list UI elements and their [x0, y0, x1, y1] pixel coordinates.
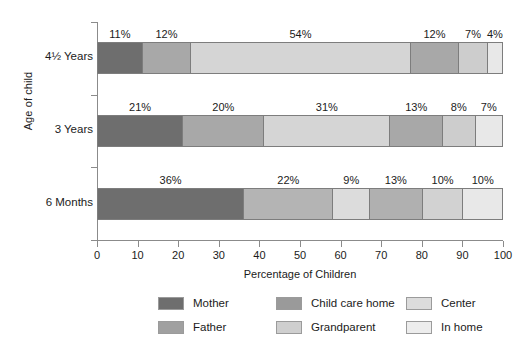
bar-segment-value-label: 11%	[109, 28, 130, 40]
x-axis-tick	[503, 241, 504, 247]
x-axis-tick-label: 90	[447, 249, 477, 261]
x-axis-tick-label: 40	[244, 249, 274, 261]
legend-item[interactable]: Center	[406, 297, 508, 310]
bar-segment-value-label: 4%	[487, 28, 503, 40]
bar-segment[interactable]: 31%	[263, 115, 389, 147]
x-axis-tick	[422, 241, 423, 247]
bar-segment[interactable]: 7%	[458, 42, 486, 74]
legend-item[interactable]: Child care home	[276, 297, 406, 310]
bar-segment-value-label: 8%	[451, 101, 467, 113]
bar-segment[interactable]: 36%	[97, 188, 243, 220]
y-axis-tick	[91, 95, 97, 96]
y-axis-category-labels: 4½ Years3 Years6 Months	[0, 0, 93, 240]
x-axis-tick	[219, 241, 220, 247]
bar-segment[interactable]: 54%	[190, 42, 409, 74]
bar-segment[interactable]: 12%	[142, 42, 191, 74]
legend-label: Mother	[193, 297, 229, 309]
bar-segment[interactable]: 9%	[332, 188, 369, 220]
legend-swatch	[406, 321, 432, 334]
bar-segment[interactable]: 22%	[243, 188, 332, 220]
bar-segment-value-label: 10%	[472, 174, 494, 186]
bar-segment-value-label: 12%	[423, 28, 445, 40]
x-axis-tick	[259, 241, 260, 247]
bar-group: 11%12%54%12%7%4%	[97, 42, 503, 74]
stacked-bar[interactable]: 21%20%31%13%8%7%	[97, 115, 503, 147]
bar-segment-value-label: 13%	[385, 174, 407, 186]
y-axis-tick	[91, 22, 97, 23]
bar-group: 21%20%31%13%8%7%	[97, 115, 503, 147]
bar-segment-value-label: 13%	[405, 101, 427, 113]
x-axis-tick-label: 80	[407, 249, 437, 261]
bar-segment-value-label: 12%	[156, 28, 178, 40]
bar-segment-value-label: 7%	[481, 101, 497, 113]
legend-label: Father	[193, 321, 226, 333]
x-axis-tick-label: 50	[285, 249, 315, 261]
x-axis-tick	[138, 241, 139, 247]
bar-segment-value-label: 7%	[465, 28, 481, 40]
x-axis-tick	[462, 241, 463, 247]
chart-legend: MotherChild care homeCenterFatherGrandpa…	[158, 291, 508, 339]
y-axis-category-label: 3 Years	[7, 123, 93, 135]
bar-segment-value-label: 54%	[289, 28, 311, 40]
y-axis-category-label: 6 Months	[7, 196, 93, 208]
x-axis-tick-label: 70	[366, 249, 396, 261]
x-axis-tick-label: 60	[326, 249, 356, 261]
x-axis-tick-label: 30	[204, 249, 234, 261]
stacked-bar[interactable]: 11%12%54%12%7%4%	[97, 42, 503, 74]
stacked-bar-chart: Age of child 4½ Years3 Years6 Months 11%…	[0, 0, 526, 351]
bar-segment[interactable]: 8%	[442, 115, 474, 147]
bar-segment[interactable]: 13%	[389, 115, 442, 147]
bar-group: 36%22%9%13%10%10%	[97, 188, 503, 220]
x-axis-tick	[341, 241, 342, 247]
bar-segment-value-label: 22%	[277, 174, 299, 186]
legend-swatch	[276, 297, 302, 310]
legend-label: Grandparent	[311, 321, 376, 333]
bar-segment[interactable]: 7%	[475, 115, 503, 147]
bar-segment[interactable]: 11%	[97, 42, 142, 74]
bar-segment[interactable]: 12%	[410, 42, 459, 74]
x-axis-tick	[381, 241, 382, 247]
bar-segment[interactable]: 10%	[422, 188, 463, 220]
x-axis-tick-label: 20	[163, 249, 193, 261]
bar-segment-value-label: 36%	[160, 174, 182, 186]
plot-area: 11%12%54%12%7%4%21%20%31%13%8%7%36%22%9%…	[97, 22, 503, 240]
legend-label: Child care home	[311, 297, 395, 309]
x-axis-title: Percentage of Children	[97, 268, 503, 280]
x-axis-tick	[178, 241, 179, 247]
bar-segment-value-label: 31%	[316, 101, 338, 113]
bar-segment[interactable]: 20%	[182, 115, 263, 147]
stacked-bar[interactable]: 36%22%9%13%10%10%	[97, 188, 503, 220]
legend-item[interactable]: In home	[406, 321, 508, 334]
x-axis-tick-label: 0	[82, 249, 112, 261]
bar-segment[interactable]: 13%	[369, 188, 422, 220]
bar-segment-value-label: 20%	[212, 101, 234, 113]
legend-label: In home	[441, 321, 483, 333]
legend-label: Center	[441, 297, 476, 309]
y-axis-tick	[91, 167, 97, 168]
legend-item[interactable]: Mother	[158, 297, 276, 310]
x-axis-tick	[300, 241, 301, 247]
x-axis-tick	[97, 241, 98, 247]
bar-segment[interactable]: 21%	[97, 115, 182, 147]
bar-segment-value-label: 10%	[432, 174, 454, 186]
bar-segment-value-label: 9%	[343, 174, 359, 186]
x-axis-tick-label: 10	[123, 249, 153, 261]
bar-segment-value-label: 21%	[129, 101, 151, 113]
legend-item[interactable]: Grandparent	[276, 321, 406, 334]
legend-swatch	[276, 321, 302, 334]
x-axis-tick-label: 100	[488, 249, 518, 261]
bar-segment[interactable]: 10%	[462, 188, 503, 220]
legend-swatch	[406, 297, 432, 310]
y-axis-category-label: 4½ Years	[7, 50, 93, 62]
legend-item[interactable]: Father	[158, 321, 276, 334]
bar-segment[interactable]: 4%	[487, 42, 503, 74]
legend-swatch	[158, 321, 184, 334]
legend-swatch	[158, 297, 184, 310]
